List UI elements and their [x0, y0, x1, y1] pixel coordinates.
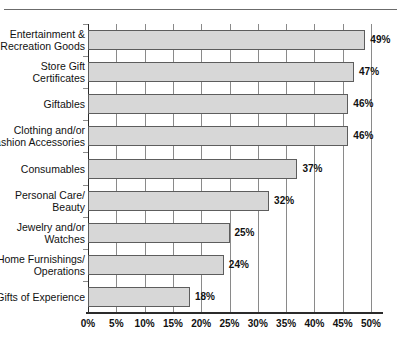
bar-value-label: 46% [353, 94, 373, 114]
y-axis-tick [83, 185, 88, 186]
y-axis-tick [83, 120, 88, 121]
bar [88, 62, 354, 82]
x-axis-tick-label: 15% [163, 318, 183, 329]
category-label: Consumables [0, 163, 85, 175]
category-label: Store Gift Certificates [0, 60, 85, 84]
top-divider-rule [4, 9, 397, 10]
bar [88, 126, 348, 146]
bar-value-label: 46% [353, 126, 373, 146]
bar-value-label: 18% [195, 287, 215, 307]
bar [88, 255, 224, 275]
category-label: Clothing and/or Fashion Accessories [0, 124, 85, 148]
y-axis-tick [83, 217, 88, 218]
y-axis-tick [83, 281, 88, 282]
bar [88, 30, 365, 50]
bar [88, 287, 190, 307]
bar-value-label: 37% [302, 159, 322, 179]
category-label: Personal Care/ Beauty [0, 189, 85, 213]
bar-value-label: 24% [229, 255, 249, 275]
bar [88, 94, 348, 114]
category-label: Jewelry and/or Watches [0, 221, 85, 245]
x-axis-tick-label: 45% [333, 318, 353, 329]
x-axis-tick-label: 40% [304, 318, 324, 329]
y-axis-tick [83, 249, 88, 250]
bar-value-label: 32% [274, 191, 294, 211]
bar-chart: Entertainment & Recreation GoodsStore Gi… [0, 0, 401, 347]
x-axis-line [86, 312, 383, 314]
category-label: Home Furnishings/ Operations [0, 253, 85, 277]
y-axis-tick [83, 56, 88, 57]
bar [88, 159, 297, 179]
bar [88, 191, 269, 211]
bar-value-label: 47% [359, 62, 379, 82]
x-axis-tick-label: 30% [248, 318, 268, 329]
x-axis-tick-label: 50% [361, 318, 381, 329]
y-axis-tick [83, 24, 88, 25]
x-axis-tick-label: 25% [219, 318, 239, 329]
category-label: Entertainment & Recreation Goods [0, 28, 85, 52]
category-label: Gifts of Experience [0, 291, 85, 303]
bar-value-label: 49% [370, 30, 390, 50]
x-axis-tick-label: 20% [191, 318, 211, 329]
x-axis-tick-label: 35% [276, 318, 296, 329]
bar-value-label: 25% [235, 223, 255, 243]
y-axis-tick [83, 88, 88, 89]
x-axis-tick-label: 0% [81, 318, 95, 329]
x-axis-tick-label: 5% [109, 318, 123, 329]
y-axis-tick [83, 152, 88, 153]
category-label: Giftables [0, 98, 85, 110]
bar [88, 223, 230, 243]
x-axis-tick-label: 10% [135, 318, 155, 329]
